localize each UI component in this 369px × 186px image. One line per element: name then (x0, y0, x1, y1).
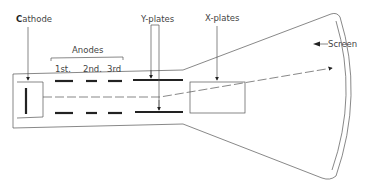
label-y-plates: Y-plates (140, 14, 175, 24)
cathode-box (17, 82, 43, 118)
funnel-bottom (183, 124, 336, 179)
tube-neck (13, 70, 183, 128)
label-cathode: Cathode (16, 14, 52, 24)
y-plates (133, 80, 183, 112)
label-anode-3: 3rd (107, 64, 121, 74)
screen-pointer-arrow-icon (313, 42, 320, 47)
cathode-assembly (17, 82, 43, 118)
x-plates-box (190, 82, 245, 113)
crt-diagram: Cathode Anodes 1st. 2nd. 3rd Y-plates X-… (0, 0, 369, 186)
tube-outline (13, 13, 351, 179)
label-x-plates: X-plates (205, 13, 240, 23)
label-anode-2: 2nd. (83, 64, 102, 74)
anodes-bracket (51, 57, 123, 61)
label-anode-1: 1st. (55, 64, 71, 74)
label-anodes: Anodes (72, 45, 104, 55)
label-screen: Screen (328, 39, 357, 49)
